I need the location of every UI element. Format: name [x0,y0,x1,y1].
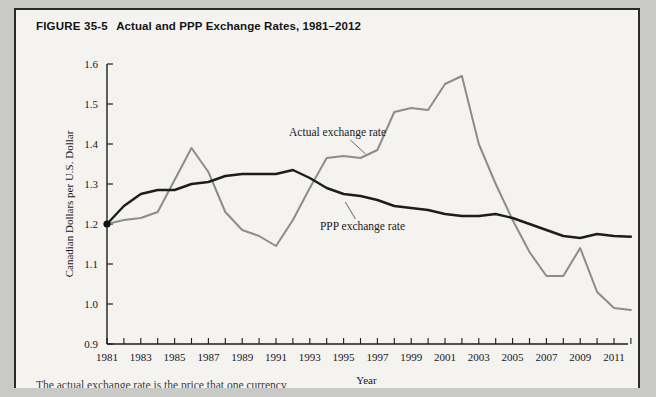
x-tick-label: 2001 [434,351,456,363]
line-chart: 0.91.01.11.21.31.41.51.61981198319851987… [16,10,640,388]
x-tick-label: 2009 [569,351,592,363]
y-tick-label: 1.4 [84,138,98,150]
figure-container: FIGURE 35-5 Actual and PPP Exchange Rate… [14,8,640,388]
x-tick-label: 2005 [502,351,525,363]
x-tick-label: 1985 [164,351,187,363]
x-tick-label: 2011 [603,351,625,363]
page-background: FIGURE 35-5 Actual and PPP Exchange Rate… [0,0,656,397]
x-tick-label: 1997 [366,351,389,363]
annotation-ppp-exchange-rate: PPP exchange rate [320,220,405,233]
y-tick-label: 1.6 [84,58,98,70]
x-tick-label: 1989 [231,351,254,363]
y-tick-label: 1.3 [84,178,98,190]
x-tick-label: 1987 [197,351,220,363]
x-tick-label: 2007 [535,351,558,363]
y-tick-label: 1.1 [84,258,98,270]
chart-area: 0.91.01.11.21.31.41.51.61981198319851987… [16,10,640,388]
x-tick-label: 1995 [333,351,356,363]
x-tick-label: 1983 [130,351,153,363]
annotation-leader-actual [350,140,365,154]
x-tick-label: 1999 [400,351,423,363]
x-tick-label: 2003 [468,351,491,363]
x-tick-label: 1981 [96,351,118,363]
y-tick-label: 0.9 [84,338,98,350]
y-tick-label: 1.2 [84,218,98,230]
x-axis-title: Year [356,374,377,386]
series-line-actual [107,76,631,310]
x-tick-label: 1991 [265,351,287,363]
figure-caption: The actual exchange rate is the price th… [36,379,287,388]
annotation-leader-ppp [345,202,355,219]
y-tick-label: 1.0 [84,298,98,310]
y-axis-title: Canadian Dollars per U.S. Dollar [63,130,75,277]
y-tick-label: 1.5 [84,98,98,110]
start-point [103,220,110,227]
annotation-actual-exchange-rate: Actual exchange rate [289,126,386,139]
x-tick-label: 1993 [299,351,322,363]
